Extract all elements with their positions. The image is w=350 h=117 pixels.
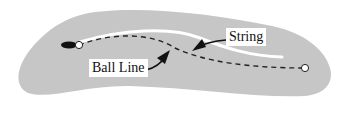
hole-marker-icon [301, 64, 308, 71]
green-shape [18, 10, 331, 96]
ball-icon [61, 42, 77, 49]
green-diagram [0, 0, 350, 117]
start-marker-icon [75, 41, 82, 48]
ball-line-label: Ball Line [89, 59, 148, 77]
diagram-canvas: String Ball Line [0, 0, 350, 117]
string-label: String [226, 28, 266, 46]
